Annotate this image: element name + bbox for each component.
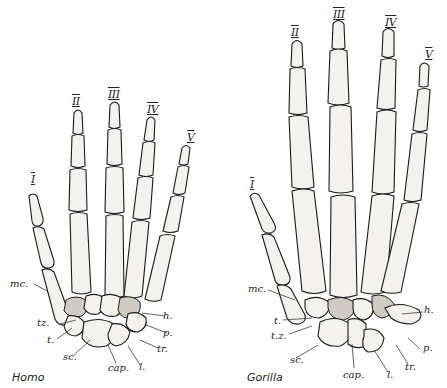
gorilla-hand-skeleton: [250, 21, 430, 353]
homo-label-tz: tz.: [37, 318, 49, 328]
gorilla-digit-v-label: V: [425, 49, 432, 60]
homo-digit-i-label: I: [31, 174, 35, 185]
gorilla-label-cap: cap.: [343, 370, 364, 380]
gorilla-digit-iv-label: IV: [385, 17, 396, 28]
gorilla-label-h: h.: [424, 305, 434, 315]
homo-label-tr: tr.: [157, 344, 168, 354]
homo-label-l: l.: [139, 362, 145, 372]
homo-label-mc: mc.: [10, 279, 28, 289]
figure-drawing: [0, 0, 447, 388]
gorilla-digit-iii-label: III: [333, 9, 345, 20]
gorilla-carpals: [305, 295, 421, 352]
gorilla-label-t: t.: [274, 316, 281, 326]
gorilla-digit-ii-label: II: [291, 27, 299, 38]
gorilla-label-sc: sc.: [290, 355, 304, 365]
homo-label-h: h.: [163, 311, 173, 321]
homo-label-cap: cap.: [108, 363, 129, 373]
gorilla-caption: Gorilla: [247, 372, 283, 383]
gorilla-label-l: l.: [387, 370, 393, 380]
homo-label-t: t.: [47, 335, 54, 345]
homo-caption: Homo: [12, 372, 44, 383]
homo-digit-ii: [69, 110, 91, 294]
hand-skeleton-comparison-figure: I II III IV V mc. tz. t. sc. cap. l. tr.…: [0, 0, 447, 388]
gorilla-digit-i-label: I: [250, 179, 254, 190]
homo-label-sc: sc.: [63, 352, 77, 362]
homo-digit-iii: [105, 102, 124, 298]
homo-digit-iii-label: III: [108, 89, 120, 100]
homo-digit-ii-label: II: [72, 96, 80, 107]
gorilla-label-p: p.: [423, 343, 433, 353]
homo-digit-iv-label: IV: [147, 104, 158, 115]
gorilla-label-tz: t.z.: [271, 331, 287, 341]
homo-carpals: [64, 294, 146, 347]
gorilla-digit-iii: [328, 21, 357, 298]
homo-label-p: p.: [163, 328, 173, 338]
gorilla-label-tr: tr.: [405, 362, 416, 372]
homo-digit-v-label: V: [187, 132, 194, 143]
gorilla-label-mc: mc.: [248, 284, 266, 294]
gorilla-digit-ii: [289, 41, 326, 294]
homo-digit-iv: [124, 117, 155, 298]
homo-digit-i: [29, 194, 70, 325]
